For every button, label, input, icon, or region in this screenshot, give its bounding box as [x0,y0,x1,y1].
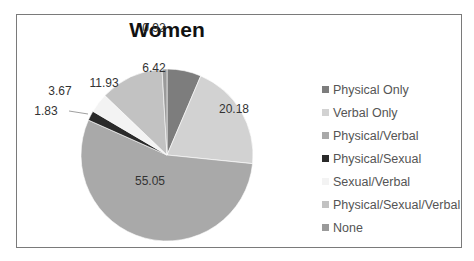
data-label: 3.67 [48,84,72,98]
data-label: 55.05 [135,174,165,188]
data-label: 11.93 [89,76,118,90]
data-label: 6.42 [142,61,166,75]
legend-item: Verbal Only [322,101,460,124]
legend-item: None [322,216,460,239]
legend-swatch [322,155,329,162]
legend-item: Physical/Sexual [322,147,460,170]
legend-item: Physical/Verbal [322,124,460,147]
legend-item: Sexual/Verbal [322,170,460,193]
legend-swatch [322,86,329,93]
legend-swatch [322,109,329,116]
leader-line [69,111,88,114]
legend-swatch [322,178,329,185]
data-label: 20.18 [219,102,249,116]
legend-swatch [322,201,329,208]
data-label: 0.92 [142,21,166,35]
legend-swatch [322,224,329,231]
legend: Physical Only Verbal Only Physical/Verba… [322,78,460,239]
legend-item: Physical/Sexual/Verbal [322,193,460,216]
pie-slices [81,69,253,241]
legend-item: Physical Only [322,78,460,101]
data-label: 1.83 [34,104,58,118]
legend-swatch [322,132,329,139]
